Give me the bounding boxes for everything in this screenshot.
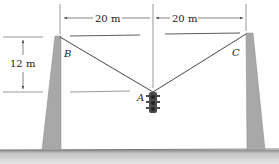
diagram-canvas: 20 m 20 m 12 m B <box>0 0 279 164</box>
traffic-light <box>146 92 160 113</box>
right-pole <box>246 33 265 150</box>
point-c-label: C <box>232 47 240 58</box>
ref-line-right <box>165 33 240 34</box>
left-span-label: 20 m <box>95 13 121 24</box>
cable-ab <box>60 37 153 92</box>
vertical-dimension: 12 m <box>3 37 130 92</box>
sag-label: 12 m <box>10 58 36 69</box>
right-span-label: 20 m <box>172 13 198 24</box>
point-b-label: B <box>63 48 71 59</box>
ground <box>0 149 279 164</box>
cable-ac <box>153 34 246 92</box>
left-pole <box>42 36 61 150</box>
point-a-label: A <box>136 92 144 103</box>
horizontal-dimension: 20 m 20 m <box>60 4 246 88</box>
ref-line-left <box>70 35 140 36</box>
